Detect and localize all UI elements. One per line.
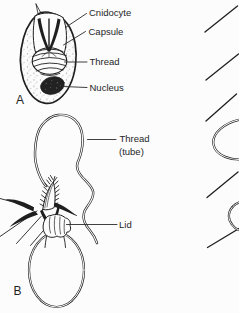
leader-cnidocyte <box>66 14 87 28</box>
panel-letter-a: A <box>16 94 24 106</box>
label-thread-tube-line1: Thread <box>120 134 150 144</box>
panel-b-discharged-nematocyst <box>0 115 117 307</box>
adjacent-figure-fragments <box>205 6 239 248</box>
lid-shape <box>43 214 71 237</box>
label-cnidocyte: Cnidocyte <box>89 8 131 18</box>
label-thread: Thread <box>90 57 120 67</box>
panel-a-undischarged-nematocyst <box>21 4 88 103</box>
fragment-loop-small <box>229 203 239 231</box>
label-lid: Lid <box>119 220 132 230</box>
panel-letter-b: B <box>14 285 22 297</box>
label-thread-tube-line2: (tube) <box>119 147 144 157</box>
cnidocyte-figure: Cnidocyte Capsule Thread Nucleus Thread … <box>0 0 239 313</box>
discharged-capsule <box>29 233 84 307</box>
fragment-loop-large <box>210 114 239 165</box>
label-nucleus: Nucleus <box>90 83 124 93</box>
label-capsule: Capsule <box>89 27 124 37</box>
